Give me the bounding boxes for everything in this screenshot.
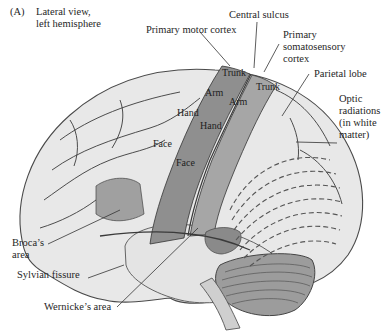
wernickes-area-label: Wernicke’s area [44, 301, 111, 313]
sensory-trunk-label: Trunk [256, 81, 280, 92]
motor-face-label: Face [153, 138, 172, 149]
primary-somatosensory-label-line1: Primary [283, 29, 317, 41]
brocas-area-region [96, 178, 144, 221]
motor-trunk-label: Trunk [222, 67, 246, 78]
parietal-lobe-label: Parietal lobe [314, 68, 367, 80]
sensory-face-label: Face [176, 157, 195, 168]
sensory-arm-label: Arm [229, 96, 247, 107]
primary-somatosensory-label-line3: cortex [283, 53, 309, 65]
motor-hand-label: Hand [177, 107, 199, 118]
optic-radiations-label-line4: matter) [339, 129, 369, 141]
brocas-area-label-line2: area [12, 249, 29, 261]
sylvian-fissure-label: Sylvian fissure [17, 269, 80, 281]
cerebellum-shape [216, 254, 315, 316]
optic-radiations-label-line2: radiations [339, 105, 380, 117]
optic-radiations-label-line3: (in white [339, 117, 377, 129]
view-label-line1: Lateral view, [36, 6, 91, 18]
primary-motor-cortex-label: Primary motor cortex [146, 24, 236, 36]
primary-somatosensory-label-line2: somatosensory [283, 41, 345, 53]
motor-arm-label: Arm [205, 87, 223, 98]
view-label-line2: left hemisphere [36, 18, 101, 30]
central-sulcus-label: Central sulcus [229, 9, 289, 21]
optic-radiations-label-line1: Optic [339, 93, 362, 105]
brocas-area-label-line1: Broca’s [12, 237, 44, 249]
sensory-hand-label: Hand [200, 120, 222, 131]
panel-label: (A) [10, 6, 25, 18]
